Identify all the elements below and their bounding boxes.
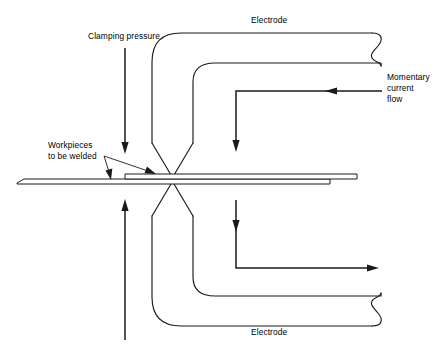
current-arrow-lower xyxy=(232,200,379,272)
label-workpieces-to-be-welded: Workpieces to be welded xyxy=(48,140,97,162)
workpiece-sheets xyxy=(17,174,357,184)
welding-schematic-svg xyxy=(0,0,436,352)
lower-electrode-tip xyxy=(152,184,193,216)
label-clamping-pressure: Clamping pressure xyxy=(88,31,160,42)
clamping-arrow-down xyxy=(121,48,128,154)
label-momentary-current-flow: Momentary current flow xyxy=(387,72,430,104)
label-electrode-top: Electrode xyxy=(251,15,287,26)
upper-sheet xyxy=(125,174,357,179)
lower-electrode-arm xyxy=(152,216,381,326)
lower-sheet xyxy=(17,179,330,184)
upper-electrode-arm xyxy=(152,33,381,143)
upper-electrode-tip xyxy=(152,143,193,175)
label-electrode-bottom: Electrode xyxy=(251,327,287,338)
current-arrow-upper xyxy=(232,87,382,152)
weld-diagram-figure: Electrode Electrode Clamping pressure Mo… xyxy=(0,0,436,352)
clamping-arrow-up xyxy=(121,199,128,340)
